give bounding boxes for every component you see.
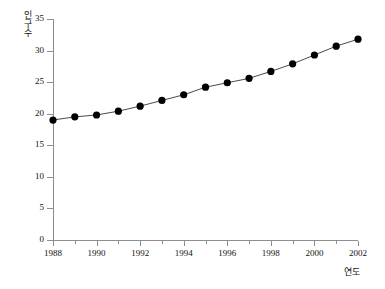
data-point [224,79,231,86]
data-point [333,43,340,50]
data-point [289,60,296,67]
data-point [137,103,144,110]
data-series-layer [0,0,385,289]
data-point [93,111,100,118]
data-point [354,36,361,43]
data-point [202,84,209,91]
data-point [245,75,252,82]
data-line [53,39,358,120]
data-point [49,116,56,123]
data-point [180,91,187,98]
data-point [71,113,78,120]
data-point [267,68,274,75]
population-by-year-chart: 인구수 연도 05101520253035 198819901992199419… [0,0,385,289]
data-point [311,51,318,58]
data-point [158,97,165,104]
data-point [115,108,122,115]
data-point-group [49,36,361,124]
